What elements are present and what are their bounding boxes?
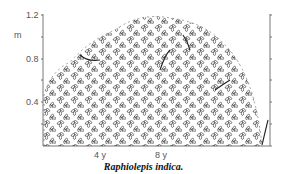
figure-caption: Raphiolepis indica.	[0, 161, 287, 172]
x-tick-8y: 8 y	[155, 150, 167, 160]
y-tick-1-2: 1.2	[26, 10, 39, 20]
left-axis	[41, 14, 43, 146]
y-tick-0-4: 0.4	[26, 97, 39, 107]
shrub-diagram	[0, 0, 287, 174]
x-tick-4y: 4 y	[94, 150, 106, 160]
y-unit-label: m	[14, 30, 22, 40]
shrub-crown	[44, 17, 262, 147]
y-tick-0-8: 0.8	[26, 54, 39, 64]
right-axis	[270, 14, 272, 146]
